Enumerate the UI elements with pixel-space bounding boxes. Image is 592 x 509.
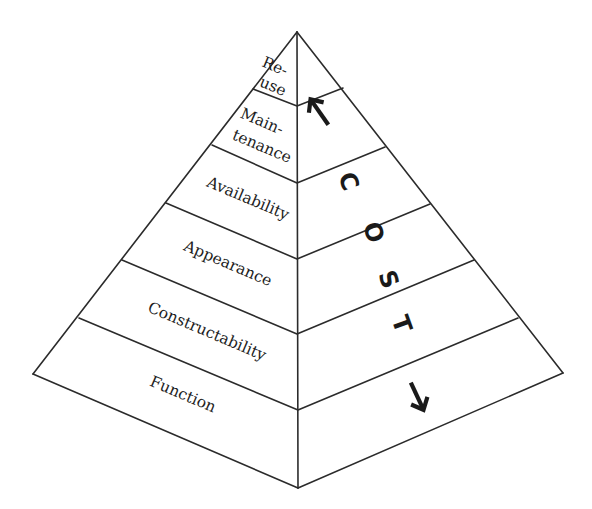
layer-label-maintenance-line2: tenance: [230, 126, 295, 167]
right-edge: [297, 32, 563, 373]
layer-label-availability: Availability: [203, 173, 292, 224]
cost-letter-c: C: [332, 168, 364, 194]
cost-label: C O S T: [303, 94, 431, 413]
cost-letter-o: O: [357, 218, 390, 247]
layer-labels: Re- use Main- tenance Availability Appea…: [145, 53, 294, 416]
base-right: [298, 373, 563, 488]
layer-label-function: Function: [147, 372, 218, 416]
center-ridge: [297, 32, 298, 488]
cost-letter-t: T: [386, 312, 418, 338]
pyramid-outline: [33, 32, 563, 488]
layer-label-appearance: Appearance: [180, 236, 274, 290]
cost-letter-s: S: [372, 266, 404, 292]
cost-pyramid-diagram: Re- use Main- tenance Availability Appea…: [0, 0, 592, 509]
layer-label-constructability: Constructability: [145, 298, 269, 364]
down-arrow-icon: [403, 379, 432, 414]
up-arrow-icon: [303, 94, 336, 130]
